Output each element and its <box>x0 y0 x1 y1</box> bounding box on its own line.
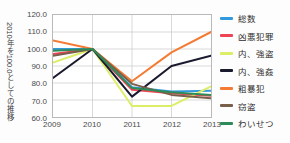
y-axis-tick-labels: 120.0110.0100.090.080.070.060.0 <box>13 14 49 118</box>
legend-swatch-icon <box>220 34 233 37</box>
x-axis-tick-label: 2010 <box>83 120 101 129</box>
line-chart: 2010年を100.0としての推移 120.0110.0100.090.080.… <box>0 0 290 143</box>
legend-item[interactable]: 窃盗 <box>220 98 256 114</box>
chart-legend: 総数凶悪犯罪内、強盗内、強姦粗暴犯窃盗わいせつ <box>220 10 290 136</box>
legend-item[interactable]: 内、強姦 <box>220 63 274 79</box>
plot-area <box>52 14 212 118</box>
legend-item-label: 窃盗 <box>238 100 256 112</box>
y-axis-tick-label: 90.0 <box>11 62 47 71</box>
y-axis-tick-label: 80.0 <box>11 79 47 88</box>
legend-item[interactable]: 内、強盗 <box>220 45 274 61</box>
legend-item-label: 総数 <box>238 12 256 24</box>
legend-item-label: わいせつ <box>238 117 274 129</box>
y-axis-tick-label: 100.0 <box>11 44 47 53</box>
legend-item[interactable]: わいせつ <box>220 115 274 131</box>
y-axis-tick-label: 60.0 <box>11 114 47 123</box>
legend-item-label: 内、強盗 <box>238 47 274 59</box>
x-axis-tick-label: 2009 <box>43 120 61 129</box>
legend-swatch-icon <box>220 122 233 125</box>
legend-swatch-icon <box>220 104 233 107</box>
y-axis-tick-label: 120.0 <box>11 10 47 19</box>
legend-item-label: 凶悪犯罪 <box>238 30 274 42</box>
y-axis-tick-label: 110.0 <box>11 27 47 36</box>
x-axis-tick-label: 2011 <box>123 120 140 129</box>
legend-swatch-icon <box>220 69 233 72</box>
chart-svg <box>53 15 211 117</box>
legend-item-label: 内、強姦 <box>238 65 274 77</box>
legend-item[interactable]: 総数 <box>220 10 256 26</box>
y-axis-tick-label: 70.0 <box>11 96 47 105</box>
x-axis-tick-label: 2012 <box>163 120 181 129</box>
x-axis-tick-label: 2013 <box>203 120 221 129</box>
legend-swatch-icon <box>220 52 233 55</box>
legend-item[interactable]: 凶悪犯罪 <box>220 28 274 44</box>
legend-item-label: 粗暴犯 <box>238 82 265 94</box>
legend-item[interactable]: 粗暴犯 <box>220 80 265 96</box>
legend-swatch-icon <box>220 87 233 90</box>
legend-swatch-icon <box>220 17 233 20</box>
x-axis-tick-labels: 20092010201120122013 <box>52 120 212 134</box>
